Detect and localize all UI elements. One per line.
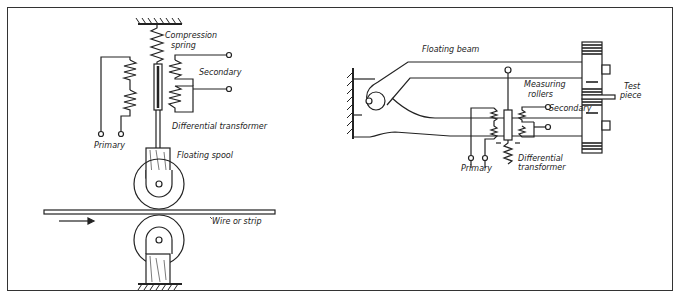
label-differential-transformer-right-1: Differential: [518, 154, 563, 163]
label-differential-transformer-right-2: transformer: [518, 163, 566, 172]
label-primary-right: Primary: [461, 164, 492, 173]
left-gauge-diagram: [44, 18, 275, 290]
compression-spring: [151, 24, 163, 64]
label-secondary-left: Secondary: [199, 68, 241, 77]
label-floating-spool: Floating spool: [177, 151, 233, 160]
label-test-piece-2: piece: [620, 91, 642, 100]
label-compression-spring-1: Compression: [165, 31, 217, 40]
label-floating-beam: Floating beam: [422, 45, 479, 54]
label-test-piece-1: Test: [624, 82, 640, 91]
label-measuring-rollers-2: rollers: [528, 90, 553, 99]
label-compression-spring-2: spring: [171, 41, 196, 50]
label-wire-or-strip: Wire or strip: [212, 217, 262, 226]
diagram-drawings: [0, 0, 682, 302]
label-primary-left: Primary: [94, 141, 125, 150]
label-measuring-rollers-1: Measuring: [524, 80, 566, 89]
label-secondary-right: Secondary: [549, 104, 591, 113]
label-differential-transformer-left: Differential transformer: [172, 122, 267, 131]
